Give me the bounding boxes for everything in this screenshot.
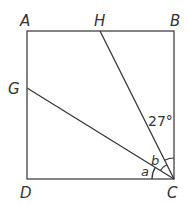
label-c: C (167, 184, 178, 202)
label-a: A (19, 12, 30, 30)
angle-label-a: a (141, 164, 149, 179)
label-d: D (20, 184, 32, 202)
label-h: H (94, 12, 105, 30)
geometry-diagram: A H B G D C 27° b a (0, 0, 188, 203)
angle-label-27: 27° (148, 113, 173, 129)
angle-arc-a (152, 167, 155, 179)
label-g: G (8, 80, 20, 98)
label-b: B (170, 12, 180, 30)
angle-arc-27 (165, 158, 174, 160)
angle-arc-b (160, 165, 166, 171)
angle-label-b: b (151, 153, 159, 168)
